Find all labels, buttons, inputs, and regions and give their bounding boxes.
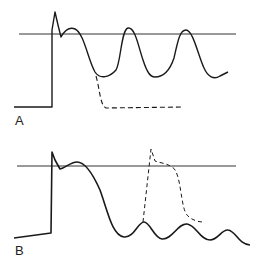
- panel-b-dashed-trace: [143, 149, 203, 222]
- panel-a-dashed-trace: [96, 76, 183, 108]
- panel-b: [14, 149, 250, 245]
- panel-a-solid-trace: [14, 12, 228, 107]
- action-potential-diagram: [0, 0, 262, 263]
- panel-b-label: B: [15, 244, 24, 257]
- panel-a: [14, 12, 236, 108]
- panel-a-label: A: [15, 114, 24, 127]
